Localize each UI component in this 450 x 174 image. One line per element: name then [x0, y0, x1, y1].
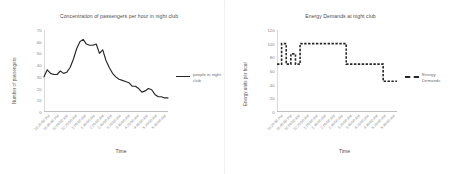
chart-panel-energy: Energy Demands at night club Energy unit…	[225, 0, 450, 174]
legend-label-passengers: people in night club	[193, 72, 223, 85]
y-axis-title-passengers: Number of passengers	[12, 58, 17, 104]
series-energy-demands	[277, 30, 397, 112]
legend-passengers: people in night club	[176, 72, 223, 85]
chart-title-passengers: Concentration of passengers per hour in …	[0, 13, 224, 19]
legend-energy: Energy Demands	[405, 72, 450, 85]
legend-swatch-solid-line	[176, 76, 190, 77]
legend-swatch-dashed-line	[405, 76, 419, 78]
y-tick-label: 30	[24, 74, 42, 79]
y-axis-title-energy: Energy units per hour	[243, 62, 248, 106]
y-tick-label: 20	[257, 96, 275, 101]
y-tick-label: 40	[257, 82, 275, 87]
y-tick-label: 60	[257, 69, 275, 74]
chart-panel-passengers: Concentration of passengers per hour in …	[0, 0, 225, 174]
legend-label-energy: Energy Demands	[422, 72, 450, 85]
x-axis-title-passengers: Time	[0, 148, 224, 154]
y-tick-label: 80	[257, 55, 275, 60]
y-tick-label: 70	[24, 28, 42, 33]
y-tick-label: 60	[24, 39, 42, 44]
chart-title-energy: Energy Demands at night club	[225, 13, 450, 19]
plot-area-passengers: 010203040506070 11:20:00 PM11:40:00 PM12…	[44, 30, 168, 112]
y-tick-label: 100	[257, 41, 275, 46]
plot-area-energy: 020406080100120 11:20:00 PM11:40:00 PM12…	[277, 30, 397, 112]
x-axis-title-energy: Time	[225, 148, 450, 154]
series-people-in-night-club	[44, 30, 168, 112]
line-path-energy	[277, 44, 397, 82]
y-tick-label: 0	[257, 110, 275, 115]
y-tick-label: 20	[24, 86, 42, 91]
y-tick-label: 50	[24, 51, 42, 56]
line-path-passengers	[44, 39, 168, 98]
y-tick-label: 40	[24, 63, 42, 68]
y-tick-label: 0	[24, 110, 42, 115]
y-tick-label: 10	[24, 98, 42, 103]
y-tick-label: 120	[257, 28, 275, 33]
x-tick-group-energy: 11:20:00 PM11:40:00 PM12:00:00 AM12:20:0…	[277, 112, 397, 146]
chart-pair-container: Concentration of passengers per hour in …	[0, 0, 450, 174]
x-tick-group-passengers: 11:20:00 PM11:40:00 PM12:00:00 AM12:20:0…	[44, 112, 168, 146]
